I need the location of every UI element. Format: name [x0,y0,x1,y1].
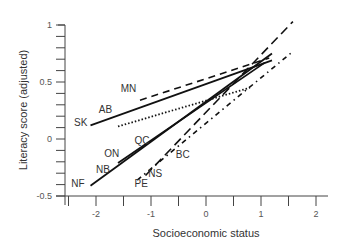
y-axis-label: Literacy score (adjusted) [17,50,29,170]
label-ab: AB [99,104,113,115]
label-bc: BC [176,149,190,160]
y-tick-label: -0.5 [36,191,52,201]
label-pe: PE [135,178,149,189]
label-on: ON [104,148,119,159]
label-nf: NF [71,178,84,189]
label-ns: NS [148,168,162,179]
label-qc: QC [135,135,150,146]
series-line-bc [137,52,292,180]
y-tick-label: 1 [47,20,52,30]
series-line-on-nb [118,63,265,163]
series-line-mn [140,58,269,100]
x-axis-label: Socioeconomic status [153,227,260,239]
label-sk: SK [74,117,88,128]
series-line-sk-ab [91,60,273,125]
x-tick-label: -1 [147,209,155,219]
province-labels: MNABSKQCONBCNBNSPENF [71,83,189,189]
series-line-qc [118,88,250,127]
x-tick-label: 0 [203,209,208,219]
label-nb: NB [96,164,110,175]
x-tick-label: 2 [313,209,318,219]
x-tick-label: -2 [92,209,100,219]
chart: -0.500.51-2-1012 MNABSKQCONBCNBNSPENF So… [0,0,343,252]
y-tick-label: 0.5 [39,77,52,87]
x-tick-label: 1 [258,209,263,219]
y-tick-label: 0 [47,134,52,144]
label-mn: MN [121,83,137,94]
series-lines [91,22,293,186]
